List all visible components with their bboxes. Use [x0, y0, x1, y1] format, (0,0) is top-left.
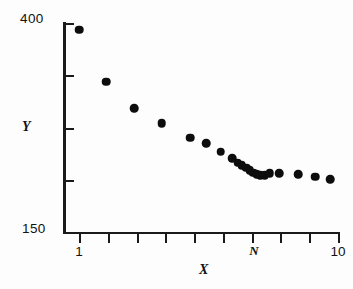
x-axis-tick	[79, 234, 81, 243]
y-axis-tick	[65, 180, 74, 182]
x-axis-line	[63, 232, 340, 235]
x-axis-title: X	[199, 262, 208, 278]
y-axis-title: Y	[22, 119, 31, 135]
x-axis-tick	[338, 234, 340, 243]
data-point	[311, 173, 320, 182]
data-point	[186, 133, 195, 142]
y-axis-tick	[65, 128, 74, 130]
x-axis-tick	[165, 234, 167, 243]
x-axis-tick	[252, 234, 254, 243]
y-tick-label-max: 400	[20, 11, 44, 26]
x-tick-label-right: 10	[330, 244, 345, 259]
y-tick-label-min: 150	[22, 221, 46, 236]
x-axis-tick	[137, 234, 139, 243]
x-axis-tick	[223, 234, 225, 243]
data-point	[130, 104, 139, 113]
data-point	[294, 170, 303, 179]
x-axis-tick	[108, 234, 110, 243]
data-point	[75, 25, 84, 34]
x-tick-label-left: 1	[75, 244, 83, 259]
data-point	[202, 139, 211, 148]
x-axis-tick	[280, 234, 282, 243]
data-point	[275, 169, 284, 178]
data-point	[265, 169, 274, 178]
y-axis-tick	[65, 75, 74, 77]
x-tick-label-n: N	[249, 243, 258, 259]
data-point	[158, 119, 167, 128]
x-axis-tick	[309, 234, 311, 243]
data-point	[102, 77, 111, 86]
y-axis-tick	[65, 232, 74, 234]
x-axis-tick	[194, 234, 196, 243]
data-point	[326, 175, 335, 184]
scatter-plot-figure: 400 150 1 N 10 Y X	[0, 0, 353, 289]
data-point	[217, 147, 226, 156]
y-axis-tick	[65, 23, 74, 25]
